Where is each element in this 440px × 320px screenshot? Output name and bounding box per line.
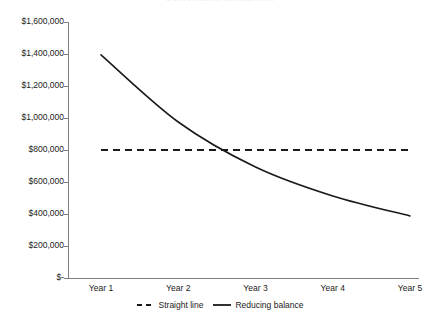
chart-legend: Straight lineReducing balance: [0, 300, 440, 310]
depreciation-line-chart: Depreciation comparison $1,600,000$1,400…: [0, 0, 440, 320]
x-axis-tick-label: Year 4: [303, 282, 363, 294]
y-axis-tick-mark: [64, 118, 68, 119]
y-axis-tick-mark: [64, 246, 68, 247]
y-axis-tick-label: $800,000: [0, 145, 64, 154]
x-axis-tick-label: Year 1: [71, 282, 131, 294]
y-axis-tick-label: $200,000: [0, 241, 64, 250]
legend-swatch-solid: [213, 301, 231, 309]
y-axis-tick-label: $400,000: [0, 209, 64, 218]
x-axis-tick-label: Year 5: [380, 282, 440, 294]
series-line-reducing-balance: [101, 55, 410, 216]
x-axis-tick-label: Year 3: [226, 282, 286, 294]
legend-label: Reducing balance: [235, 300, 303, 310]
y-axis-tick-labels: $1,600,000$1,400,000$1,200,000$1,000,000…: [0, 0, 64, 320]
y-axis-tick-label: $1,400,000: [0, 49, 64, 58]
legend-entry[interactable]: Straight line: [137, 300, 204, 310]
y-axis-tick-mark: [64, 86, 68, 87]
x-axis-line: [68, 278, 419, 279]
legend-swatch-dashed: [137, 301, 155, 309]
y-axis-tick-mark: [64, 150, 68, 151]
y-axis-tick-label: $-: [0, 273, 64, 282]
y-axis-tick-mark: [64, 278, 68, 279]
y-axis-tick-label: $1,600,000: [0, 17, 64, 26]
x-axis-tick-labels: Year 1Year 2Year 3Year 4Year 5: [68, 282, 419, 296]
x-axis-tick-label: Year 2: [148, 282, 208, 294]
plot-area: [68, 22, 418, 278]
legend-entry[interactable]: Reducing balance: [213, 300, 303, 310]
y-axis-tick-label: $600,000: [0, 177, 64, 186]
y-axis-tick-label: $1,200,000: [0, 81, 64, 90]
y-axis-tick-mark: [64, 214, 68, 215]
y-axis-tick-mark: [64, 22, 68, 23]
y-axis-tick-mark: [64, 182, 68, 183]
series-plot: [68, 22, 418, 278]
y-axis-tick-label: $1,000,000: [0, 113, 64, 122]
legend-label: Straight line: [159, 300, 204, 310]
chart-title: Depreciation comparison: [0, 0, 440, 1]
y-axis-tick-mark: [64, 54, 68, 55]
